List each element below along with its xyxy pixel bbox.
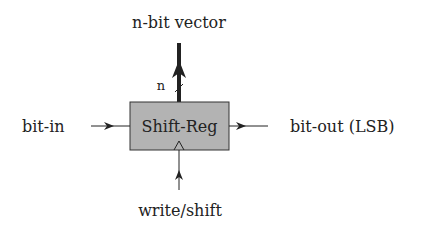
write-shift-arrow <box>175 150 183 190</box>
shift-register-diagram: n-bit vector n Shift-Reg bit-in bit-out … <box>0 0 434 226</box>
bus-width-label: n <box>157 78 166 93</box>
output-label: bit-out (LSB) <box>290 117 394 136</box>
input-label: bit-in <box>22 117 65 136</box>
bit-in-arrow <box>91 122 130 130</box>
bit-out-arrow <box>229 122 268 130</box>
diagram-canvas: n-bit vector n Shift-Reg bit-in bit-out … <box>0 0 434 226</box>
top-label: n-bit vector <box>132 13 226 32</box>
block-label: Shift-Reg <box>142 117 218 136</box>
control-label: write/shift <box>138 201 222 220</box>
bus-output-arrow <box>172 43 186 102</box>
